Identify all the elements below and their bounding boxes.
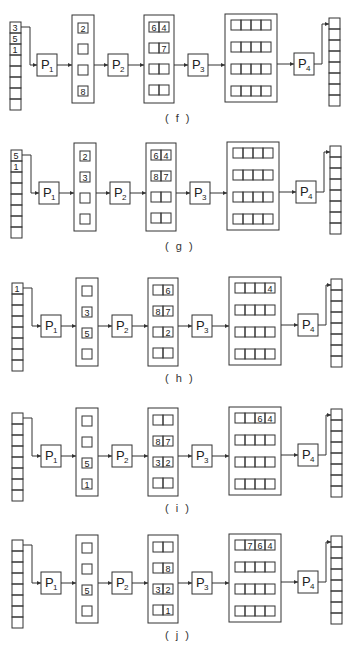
svg-text:5: 5	[85, 459, 90, 469]
processor-p4: P4	[298, 571, 318, 593]
svg-text:2: 2	[166, 585, 171, 595]
output-queue	[330, 146, 341, 234]
panel-label: ( f )	[165, 112, 192, 124]
processor-p1: P1	[41, 315, 61, 337]
stage2-buffer: 6872	[148, 278, 178, 366]
panel-j: P15P28321P3764P4( j )	[0, 512, 359, 642]
output-queue	[329, 18, 340, 106]
input-queue: 351	[10, 22, 21, 110]
panel-label: ( g )	[165, 240, 195, 252]
processor-p1: P1	[41, 445, 61, 467]
svg-text:3: 3	[13, 23, 18, 33]
svg-text:1: 1	[13, 45, 18, 55]
svg-text:2: 2	[122, 193, 127, 202]
svg-text:3: 3	[156, 585, 161, 595]
svg-text:5: 5	[85, 329, 90, 339]
stage3-buffer: 4	[229, 277, 281, 365]
panel-h: 1P135P26872P34P4( h )	[0, 255, 359, 385]
svg-text:3: 3	[202, 193, 207, 202]
processor-p3: P3	[192, 315, 212, 337]
svg-text:2: 2	[166, 458, 171, 468]
svg-text:3: 3	[156, 458, 161, 468]
input-queue: 1	[12, 283, 23, 371]
svg-text:1: 1	[51, 193, 56, 202]
svg-text:7: 7	[162, 44, 167, 54]
output-queue	[331, 409, 342, 497]
svg-text:1: 1	[166, 606, 171, 616]
stage3-buffer: 764	[229, 534, 281, 622]
processor-p1: P1	[39, 182, 59, 204]
svg-text:1: 1	[85, 480, 90, 490]
processor-p4: P4	[296, 181, 316, 203]
svg-text:8: 8	[81, 87, 86, 97]
svg-text:2: 2	[81, 24, 86, 34]
svg-text:7: 7	[248, 541, 253, 551]
svg-text:6: 6	[258, 541, 263, 551]
output-queue	[331, 279, 342, 367]
panel-label: ( h )	[165, 372, 195, 384]
stage1-buffer: 23	[74, 143, 96, 231]
processor-p2: P2	[112, 445, 132, 467]
input-queue: 51	[11, 150, 22, 238]
svg-text:4: 4	[268, 414, 273, 424]
svg-text:4: 4	[164, 151, 169, 161]
processor-p2: P2	[112, 315, 132, 337]
output-queue	[331, 536, 342, 624]
input-queue	[12, 540, 23, 628]
svg-text:4: 4	[162, 23, 167, 33]
stage2-buffer: 6487	[146, 143, 176, 231]
processor-p3: P3	[188, 54, 208, 76]
processor-p3: P3	[192, 445, 212, 467]
svg-text:7: 7	[164, 172, 169, 182]
svg-text:2: 2	[120, 65, 125, 74]
svg-text:1: 1	[53, 583, 58, 592]
svg-text:3: 3	[204, 326, 209, 335]
svg-text:8: 8	[154, 172, 159, 182]
input-queue	[12, 413, 23, 501]
processor-p3: P3	[192, 572, 212, 594]
panel-g: 51P123P26487P3P4( g )	[0, 128, 359, 258]
stage3-buffer: 64	[229, 407, 281, 495]
svg-text:5: 5	[85, 586, 90, 596]
processor-p4: P4	[294, 53, 314, 75]
svg-text:4: 4	[310, 325, 315, 334]
svg-text:8: 8	[156, 307, 161, 317]
svg-text:1: 1	[15, 284, 20, 294]
svg-text:1: 1	[53, 456, 58, 465]
stage3-buffer	[227, 142, 279, 230]
svg-text:1: 1	[14, 162, 19, 172]
svg-text:3: 3	[200, 65, 205, 74]
svg-text:6: 6	[154, 151, 159, 161]
svg-text:4: 4	[308, 192, 313, 201]
svg-text:2: 2	[124, 583, 129, 592]
svg-text:8: 8	[156, 437, 161, 447]
panel-f: 351P128P2647P3P4( f )	[0, 0, 359, 130]
stage2-buffer: 8732	[148, 408, 178, 496]
processor-p3: P3	[190, 182, 210, 204]
processor-p2: P2	[108, 54, 128, 76]
svg-text:4: 4	[306, 64, 311, 73]
svg-text:4: 4	[268, 284, 273, 294]
processor-p1: P1	[37, 54, 57, 76]
processor-p4: P4	[298, 444, 318, 466]
svg-text:3: 3	[85, 308, 90, 318]
svg-text:6: 6	[166, 286, 171, 296]
svg-text:6: 6	[152, 23, 157, 33]
svg-text:2: 2	[166, 328, 171, 338]
svg-text:3: 3	[204, 456, 209, 465]
svg-text:1: 1	[53, 326, 58, 335]
panel-label: ( j )	[165, 629, 191, 641]
svg-text:2: 2	[124, 456, 129, 465]
svg-text:4: 4	[310, 455, 315, 464]
svg-text:6: 6	[258, 414, 263, 424]
stage1-buffer: 51	[76, 408, 98, 496]
svg-text:1: 1	[49, 65, 54, 74]
processor-p1: P1	[41, 572, 61, 594]
svg-text:7: 7	[166, 307, 171, 317]
stage1-buffer: 35	[76, 278, 98, 366]
processor-p2: P2	[112, 572, 132, 594]
svg-text:5: 5	[13, 34, 18, 44]
panel-i: P151P28732P364P4( i )	[0, 385, 359, 515]
svg-text:3: 3	[204, 583, 209, 592]
processor-p4: P4	[298, 314, 318, 336]
